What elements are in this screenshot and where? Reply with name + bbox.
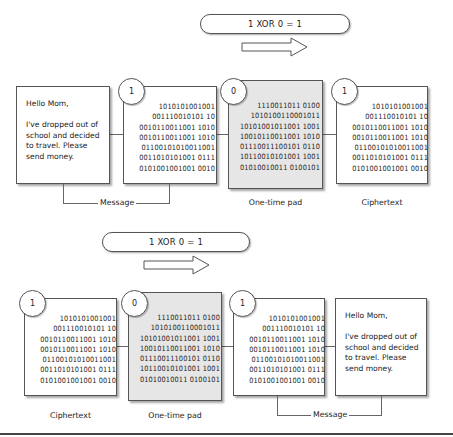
xor-formula-top: 1 XOR 0 = 1 (200, 14, 350, 34)
bit-rows: 1010101001001 001110010101 10 0010110011… (32, 314, 116, 386)
bit-row: 10101001011001 1001 (136, 334, 220, 344)
bit-row: 0101001001001 0010 (344, 164, 428, 174)
bit-row: 0010110011001 1010 (32, 345, 116, 355)
bit-rows: 1010101001001 001110010101 10 0010110011… (131, 102, 215, 174)
letter-greeting: Hello Mom, (345, 311, 388, 320)
bit-row: 0010110011001 1010 (131, 123, 215, 133)
message-bracket-right (381, 396, 382, 416)
right-arrow-icon (241, 37, 309, 57)
ciphertext-label: Ciphertext (336, 198, 428, 207)
bit-row: 0101001001001 0010 (131, 164, 215, 174)
pad-bit-badge: 0 (121, 290, 148, 317)
bit-row: 01110011100101 0110 (236, 142, 320, 152)
pad-label: One-time pad (128, 411, 222, 420)
bit-row: 1010101001001 (131, 102, 215, 112)
ciphertext-bit-badge: 1 (331, 78, 358, 105)
connector (323, 134, 337, 135)
bit-row: 0010110011001 1010 (344, 133, 428, 143)
bit-row: 0011010101001 0111 (241, 365, 325, 375)
xor-formula-bottom: 1 XOR 0 = 1 (102, 232, 250, 252)
ciphertext-label: Ciphertext (24, 411, 117, 420)
bit-row: 01100101010011001 (241, 355, 325, 365)
bit-row: 1010100110001011 (136, 323, 220, 333)
ciphertext-bit-badge: 1 (19, 290, 46, 317)
bit-row: 001110010101 10 (241, 324, 325, 334)
bit-row: 01100101010011001 (131, 143, 215, 153)
bit-row: 0101001001001 0010 (241, 376, 325, 386)
message-bracket-left (63, 184, 64, 204)
bit-rows: 1110011011 0100 1010100110001011 1010100… (136, 313, 220, 385)
bit-row: 0010110011001 1010 (241, 335, 325, 345)
bit-row: 1110011011 0100 (136, 313, 220, 323)
bit-row: 0011010101001 0111 (344, 153, 428, 163)
bit-row: 0010110011001 1010 (131, 133, 215, 143)
bit-rows: 1010101001001 001110010101 10 0010110011… (241, 314, 325, 386)
bit-row: 001110010101 10 (344, 112, 428, 122)
bit-row: 10110010101001 1001 (236, 152, 320, 162)
bit-row: 10010110011001 1010 (236, 132, 320, 142)
bit-row: 01010010011 0100101 (136, 375, 220, 385)
connector (110, 134, 124, 135)
bit-row: 0010110011001 1010 (344, 123, 428, 133)
bit-rows: 1110011011 0100 1010100110001011 1010100… (236, 101, 320, 173)
message-bit-badge: 1 (229, 290, 256, 317)
message-bracket-left (277, 396, 278, 416)
letter-greeting: Hello Mom, (26, 99, 69, 108)
message-label: Message (98, 198, 136, 207)
plaintext-letter-box: Hello Mom,I've dropped out of school and… (16, 86, 110, 184)
plaintext-letter-box: Hello Mom,I've dropped out of school and… (335, 298, 427, 396)
bit-row: 1010100110001011 (236, 111, 320, 121)
bit-row: 001110010101 10 (32, 324, 116, 334)
bottom-rule (0, 433, 453, 435)
bit-row: 10101001011001 1001 (236, 122, 320, 132)
bit-row: 1110011011 0100 (236, 101, 320, 111)
right-arrow-icon (143, 255, 211, 275)
pad-label: One-time pad (228, 198, 323, 207)
bit-row: 0101001001001 0010 (32, 376, 116, 386)
letter-body: I've dropped out of school and decided t… (345, 332, 419, 373)
bit-row: 1010101001001 (241, 314, 325, 324)
bit-row: 001110010101 10 (131, 112, 215, 122)
message-bit-badge: 1 (118, 78, 145, 105)
pad-bit-badge: 0 (220, 78, 247, 105)
bit-row: 0011010101001 0111 (32, 365, 116, 375)
letter-body: I've dropped out of school and decided t… (26, 120, 100, 161)
bit-row: 1010101001001 (344, 102, 428, 112)
bit-rows: 1010101001001 001110010101 10 0010110011… (344, 102, 428, 174)
bit-row: 01100101010011001 (32, 355, 116, 365)
message-bracket-right (169, 184, 170, 204)
bit-row: 0010110011001 1010 (241, 345, 325, 355)
bit-row: 0011010101001 0111 (131, 153, 215, 163)
bit-row: 10110010101001 1001 (136, 364, 220, 374)
bit-row: 0010110011001 1010 (32, 335, 116, 345)
bit-row: 01100101010011001 (344, 143, 428, 153)
message-label: Message (311, 410, 349, 419)
bit-row: 01110011100101 0110 (136, 354, 220, 364)
bit-row: 10010110011001 1010 (136, 344, 220, 354)
bit-row: 01010010011 0100101 (236, 163, 320, 173)
bit-row: 1010101001001 (32, 314, 116, 324)
